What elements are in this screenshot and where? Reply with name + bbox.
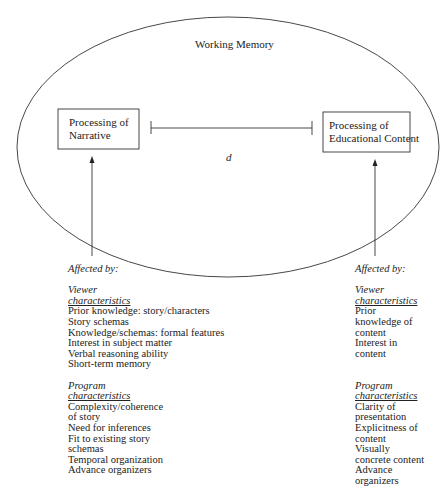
right-arrow-head-icon: [373, 159, 378, 166]
distance-label: d: [226, 151, 232, 163]
educational-box-line2: Educational Content: [329, 132, 419, 145]
affected-by-label: Affected by:: [355, 264, 440, 275]
list-item: Story schemas: [68, 317, 238, 328]
educational-factors-column: Affected by: Viewer characteristics Prio…: [355, 264, 440, 486]
list-item: Advance organizers: [68, 465, 238, 476]
list-item: Need for inferences: [68, 423, 238, 434]
list-item: Explicitness of: [355, 423, 440, 434]
affected-by-label: Affected by:: [68, 264, 238, 275]
narrative-box-line2: Narrative: [69, 129, 129, 142]
list-item: content: [355, 349, 440, 360]
narrative-box-line1: Processing of: [69, 116, 129, 129]
left-arrow-head-icon: [90, 156, 95, 163]
list-item: Short-term memory: [68, 359, 238, 370]
list-item: knowledge of: [355, 317, 440, 328]
narrative-box-label: Processing of Narrative: [69, 116, 129, 142]
working-memory-label: Working Memory: [195, 38, 274, 50]
list-item: organizers: [355, 476, 440, 487]
educational-content-box-label: Processing of Educational Content: [329, 119, 419, 145]
narrative-factors-column: Affected by: Viewer characteristics Prio…: [68, 264, 238, 476]
educational-box-line1: Processing of: [329, 119, 419, 132]
